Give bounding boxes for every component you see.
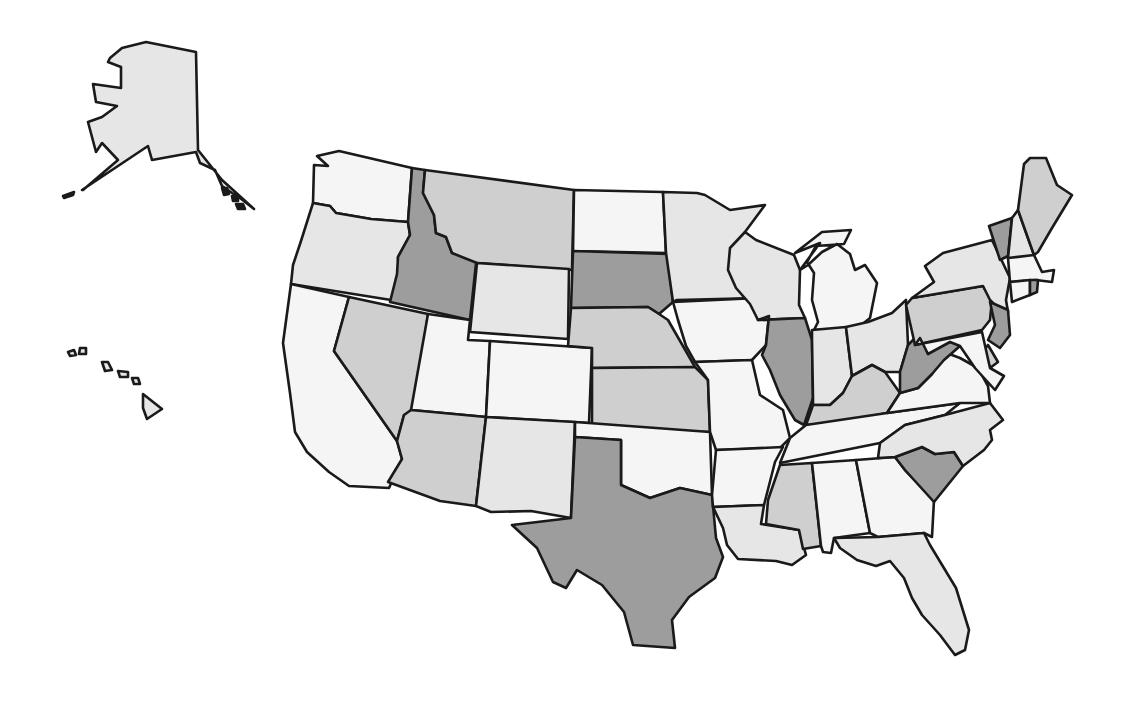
state-ma bbox=[1008, 255, 1054, 282]
state-az bbox=[388, 410, 486, 506]
hawaii-island bbox=[102, 362, 112, 371]
state-ct bbox=[1010, 280, 1030, 302]
hawaii-island bbox=[118, 371, 128, 377]
state-nj bbox=[988, 302, 1010, 348]
state-hi bbox=[143, 394, 162, 419]
hawaii-island bbox=[68, 350, 76, 356]
state-mi bbox=[795, 230, 877, 330]
state-sd bbox=[571, 251, 673, 314]
alaska-island bbox=[63, 192, 74, 198]
state-co bbox=[486, 341, 592, 423]
state-fl bbox=[834, 533, 969, 655]
state-nd bbox=[573, 190, 666, 253]
alaska-island bbox=[232, 196, 238, 201]
state-ks bbox=[592, 367, 710, 432]
state-nm bbox=[476, 417, 575, 518]
states-layer bbox=[82, 42, 1072, 655]
hawaii-island bbox=[79, 348, 86, 354]
islands-layer bbox=[63, 188, 245, 384]
hawaii-island bbox=[132, 378, 140, 384]
alaska-island bbox=[236, 204, 245, 209]
state-wy bbox=[470, 263, 569, 339]
us-choropleth-map bbox=[0, 0, 1136, 702]
state-ri bbox=[1030, 280, 1038, 295]
alaska-island bbox=[222, 188, 229, 195]
state-ak bbox=[82, 42, 254, 209]
